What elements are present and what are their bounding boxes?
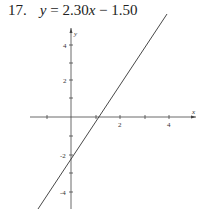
y-tick-label-neg2: -2 [60,152,66,160]
y-tick-label-neg4: -4 [60,189,66,197]
y-axis-label: y [73,30,78,38]
plotted-line [38,14,167,209]
y-axis-arrow-icon [70,28,73,33]
graph: 2 4 4 2 -2 -4 x y [0,0,204,219]
x-axis-label: x [191,108,196,116]
y-tick-label-4: 4 [63,42,67,50]
x-tick-label-2: 2 [118,121,122,129]
y-tick-label-2: 2 [63,77,67,85]
x-tick-label-4: 4 [167,121,171,129]
